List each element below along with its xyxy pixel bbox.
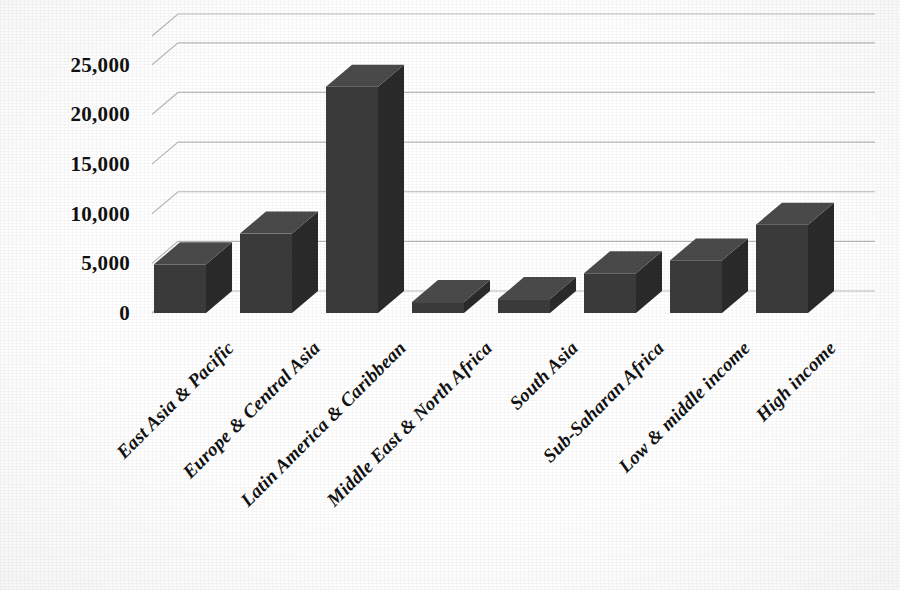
bar-front-face bbox=[498, 299, 550, 313]
bar-front-face bbox=[584, 273, 636, 313]
gridline bbox=[152, 192, 875, 214]
bar-side-face bbox=[378, 65, 404, 313]
bar[interactable]: Latin America & Caribbean: 22,800 bbox=[326, 65, 404, 313]
bar-front-face bbox=[756, 225, 808, 313]
bar-front-face bbox=[240, 234, 292, 313]
bar[interactable]: Middle East & North Africa: 1,100 bbox=[412, 280, 490, 313]
y-axis-tick-label: 25,000 bbox=[5, 52, 130, 77]
gridline-top bbox=[152, 14, 875, 36]
y-axis-tick-label: 5,000 bbox=[5, 251, 130, 276]
bar[interactable]: Low & middle income: 5,300 bbox=[670, 238, 748, 313]
bar[interactable]: Europe & Central Asia: 8,000 bbox=[240, 212, 318, 313]
bar-series: East Asia & Pacific: 4,900Europe & Centr… bbox=[154, 65, 834, 313]
gridline bbox=[152, 43, 875, 65]
y-axis-tick-label: 20,000 bbox=[5, 102, 130, 127]
gridline bbox=[152, 142, 875, 164]
bar-front-face bbox=[326, 87, 378, 313]
bar[interactable]: East Asia & Pacific: 4,900 bbox=[154, 242, 232, 313]
bar[interactable]: Sub-Saharan Africa: 4,000 bbox=[584, 251, 662, 313]
y-axis-tick-label: 0 bbox=[5, 301, 130, 326]
bar-front-face bbox=[412, 302, 464, 313]
bar-chart: 05,00010,00015,00020,00025,000 East Asia… bbox=[0, 0, 900, 590]
bar[interactable]: South Asia: 1,400 bbox=[498, 277, 576, 313]
bar-front-face bbox=[154, 264, 206, 313]
y-axis-tick-label: 15,000 bbox=[5, 152, 130, 177]
bar[interactable]: High income: 8,900 bbox=[756, 203, 834, 313]
y-axis-tick-label: 10,000 bbox=[5, 201, 130, 226]
bar-front-face bbox=[670, 260, 722, 313]
gridline bbox=[152, 92, 875, 114]
